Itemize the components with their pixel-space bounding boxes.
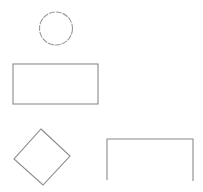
open-rectangle-shape: [107, 139, 193, 181]
diamond-shape: [14, 129, 70, 185]
rectangle-shape: [13, 64, 98, 104]
circle-shape: [40, 12, 73, 45]
shapes-canvas: [0, 0, 203, 192]
